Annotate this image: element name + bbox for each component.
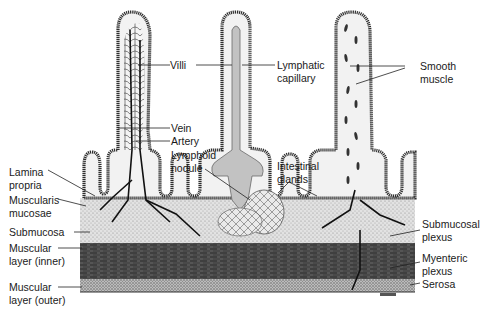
label-lamina-propria-line2: propria [9,179,42,192]
label-smooth-muscle-line1: Smooth [420,60,456,73]
label-lymphoid-nodule-line1: Lymphoid [171,149,216,162]
label-serosa: Serosa [422,278,455,291]
artist-signature [380,293,396,296]
left-villus-vessel-net [124,23,145,150]
label-lymphatic-capillary-line2: capillary [277,72,316,85]
label-vein: Vein [171,122,191,135]
label-submucosal-plexus-line1: Submucosal [422,218,480,231]
label-muscular-inner-line1: Muscular [9,242,52,255]
muscular-outer-layer [80,279,415,292]
lymphoid-tissue-base [218,208,262,236]
label-myenteric-plexus-line1: Myenteric [422,252,468,265]
label-lymphoid-nodule-line2: nodule [171,162,203,175]
label-artery: Artery [171,135,199,148]
label-intestinal-glands-line2: glands [277,173,308,186]
intestinal-wall-diagram [0,0,489,310]
label-myenteric-plexus-line2: plexus [422,265,452,278]
label-muscularis-mucosae-line2: mucosae [9,207,52,220]
muscular-inner-layer [80,243,415,279]
label-smooth-muscle-line2: muscle [420,73,453,86]
label-muscular-outer-line1: Muscular [9,281,52,294]
label-muscular-outer-line2: layer (outer) [9,294,66,307]
label-submucosa: Submucosa [9,226,64,239]
label-lamina-propria-line1: Lamina [9,166,43,179]
label-villi: Villi [170,59,186,72]
label-intestinal-glands-line1: Intestinal [277,160,319,173]
label-muscularis-mucosae-line1: Muscularis [9,194,59,207]
label-lymphatic-capillary-line1: Lymphatic [277,59,324,72]
label-muscular-inner-line2: layer (inner) [9,255,65,268]
label-submucosal-plexus-line2: plexus [422,231,452,244]
